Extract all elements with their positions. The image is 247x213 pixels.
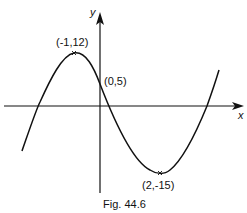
cubic-graph	[0, 0, 247, 213]
x-axis-label: x	[238, 110, 244, 121]
figure-caption: Fig. 44.6	[103, 199, 146, 210]
cubic-curve	[22, 53, 219, 174]
y-axis-label: y	[90, 7, 96, 18]
y-intercept-label: (0,5)	[104, 76, 127, 87]
min-point-label: (2,-15)	[142, 180, 174, 191]
max-point-label: (-1,12)	[56, 37, 88, 48]
